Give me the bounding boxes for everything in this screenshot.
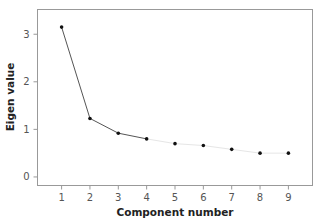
x-tick-label: 8 xyxy=(257,192,263,203)
data-point-marker xyxy=(88,117,92,121)
y-tick-label: 1 xyxy=(23,124,29,135)
x-tick-label: 1 xyxy=(58,192,64,203)
data-point-marker xyxy=(230,148,234,152)
data-markers xyxy=(60,25,290,155)
x-tick-label: 2 xyxy=(87,192,93,203)
data-point-marker xyxy=(258,151,262,155)
y-tick-label: 2 xyxy=(23,76,29,87)
x-tick-label: 6 xyxy=(200,192,206,203)
data-point-marker xyxy=(60,25,64,29)
data-line xyxy=(62,27,289,153)
data-point-marker xyxy=(145,137,149,141)
y-tick-label: 0 xyxy=(23,171,29,182)
x-tick-label: 5 xyxy=(172,192,178,203)
y-tick-label: 3 xyxy=(23,29,29,40)
x-tick-label: 3 xyxy=(115,192,121,203)
x-axis-ticks: 123456789 xyxy=(58,186,291,203)
data-point-marker xyxy=(202,144,206,148)
y-axis-label: Eigen value xyxy=(4,63,16,132)
y-axis-ticks: 0123 xyxy=(23,29,37,183)
faint-line-segment xyxy=(147,139,289,153)
x-axis-label: Component number xyxy=(116,206,234,218)
data-point-marker xyxy=(173,142,177,146)
scree-plot: 0123 123456789 Component number Eigen va… xyxy=(0,0,318,222)
x-tick-label: 7 xyxy=(229,192,235,203)
data-point-marker xyxy=(287,151,291,155)
x-tick-label: 4 xyxy=(143,192,149,203)
strong-line-segment xyxy=(62,27,147,139)
x-tick-label: 9 xyxy=(285,192,291,203)
plot-frame xyxy=(38,10,313,186)
data-point-marker xyxy=(116,131,120,135)
